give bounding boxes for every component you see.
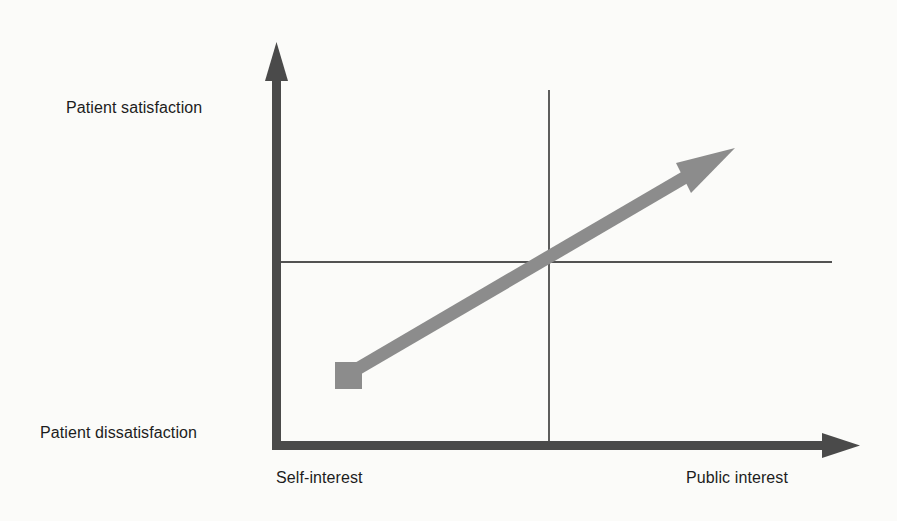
x-axis-shaft bbox=[272, 441, 825, 450]
y-axis-bottom-label: Patient dissatisfaction bbox=[40, 424, 197, 442]
x-axis-arrow-icon bbox=[822, 433, 860, 458]
trend-arrow-shaft bbox=[352, 165, 706, 372]
x-axis-left-label: Self-interest bbox=[276, 469, 363, 487]
x-axis-right-label: Public interest bbox=[686, 469, 788, 487]
trend-arrowhead-icon bbox=[676, 148, 735, 193]
quadrant-diagram bbox=[0, 0, 897, 521]
y-axis-top-label: Patient satisfaction bbox=[66, 99, 202, 117]
trend-start-square-icon bbox=[335, 362, 362, 389]
y-axis-arrow-icon bbox=[265, 42, 288, 81]
y-axis-shaft bbox=[272, 78, 281, 450]
